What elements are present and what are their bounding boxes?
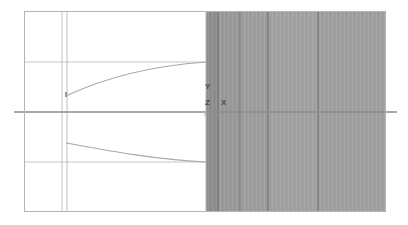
drawing-canvas: Y Z X PNT DX DY — [0, 0, 408, 225]
axis-label-y: Y — [205, 83, 210, 91]
axis-label-z: Z — [205, 99, 210, 107]
axis-label-x: X — [221, 99, 226, 107]
dimension-row: PNT DX DY — [204, 113, 240, 118]
